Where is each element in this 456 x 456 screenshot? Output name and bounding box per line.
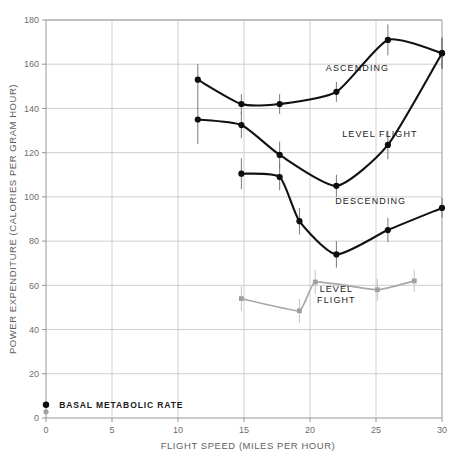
x-tick-label: 30 <box>437 425 447 435</box>
x-tick-label: 15 <box>239 425 249 435</box>
data-point <box>239 296 244 301</box>
x-tick-label: 25 <box>371 425 381 435</box>
data-point <box>238 101 244 107</box>
data-point <box>313 280 318 285</box>
data-point <box>277 174 283 180</box>
y-axis-title: POWER EXPENDITURE (CALORIES PER GRAM HOU… <box>7 84 18 354</box>
data-point <box>296 218 302 224</box>
y-tick-label: 40 <box>29 325 39 335</box>
x-tick-label: 10 <box>173 425 183 435</box>
data-point <box>333 183 339 189</box>
data-point <box>385 37 391 43</box>
bmr-label: BASAL METABOLIC RATE <box>59 400 183 410</box>
y-tick-label: 0 <box>34 413 39 423</box>
y-tick-label: 80 <box>29 236 39 246</box>
y-tick-label: 180 <box>24 15 39 25</box>
data-point <box>238 171 244 177</box>
data-point <box>385 142 391 148</box>
data-point <box>439 50 445 56</box>
data-point <box>277 101 283 107</box>
series-label-3: FLIGHT <box>317 295 356 305</box>
data-point <box>238 122 244 128</box>
basal-metabolic-rate-annotation: BASAL METABOLIC RATE <box>43 400 184 415</box>
bmr-point <box>43 402 49 408</box>
y-tick-label: 100 <box>24 192 39 202</box>
data-point <box>439 205 445 211</box>
series-line <box>241 174 442 255</box>
y-tick-label: 20 <box>29 369 39 379</box>
x-tick-label: 20 <box>305 425 315 435</box>
series-label-3: LEVEL <box>320 284 354 294</box>
chart-canvas: 020406080100120140160180 051015202530 AS… <box>0 0 456 456</box>
series-line <box>198 53 442 186</box>
y-tick-labels: 020406080100120140160180 <box>24 15 46 423</box>
y-tick-label: 60 <box>29 281 39 291</box>
series-1 <box>195 38 445 197</box>
chart-figure: 020406080100120140160180 051015202530 AS… <box>0 0 456 456</box>
x-tick-labels: 051015202530 <box>43 418 447 435</box>
data-point <box>195 116 201 122</box>
series-0 <box>195 24 445 114</box>
y-tick-label: 120 <box>24 148 39 158</box>
data-point <box>195 77 201 83</box>
data-point <box>375 287 380 292</box>
series-group <box>195 24 445 323</box>
series-2 <box>238 158 445 267</box>
data-point <box>333 251 339 257</box>
data-point <box>412 279 417 284</box>
series-line <box>198 39 442 105</box>
series-label-0: ASCENDING <box>326 63 389 73</box>
x-tick-label: 0 <box>43 425 48 435</box>
y-tick-label: 140 <box>24 104 39 114</box>
bmr-point <box>43 409 48 414</box>
y-tick-label: 160 <box>24 59 39 69</box>
x-tick-label: 5 <box>109 425 114 435</box>
x-axis-title: FLIGHT SPEED (MILES PER HOUR) <box>161 440 336 451</box>
series-label-1: LEVEL FLIGHT <box>342 129 417 139</box>
data-point <box>385 227 391 233</box>
data-point <box>277 152 283 158</box>
data-point <box>333 89 339 95</box>
x-gridlines <box>112 20 376 418</box>
series-annotation-labels: ASCENDINGLEVEL FLIGHTDESCENDINGLEVELFLIG… <box>317 63 418 306</box>
data-point <box>297 308 302 313</box>
series-label-2: DESCENDING <box>335 196 406 206</box>
